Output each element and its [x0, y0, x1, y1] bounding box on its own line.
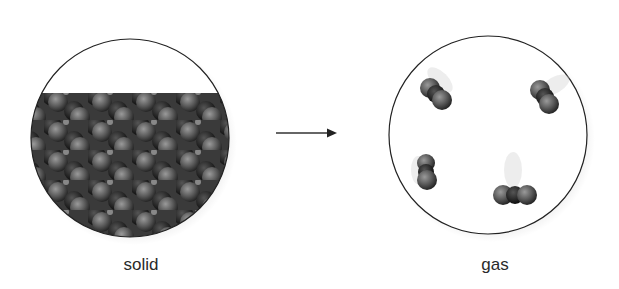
solid-label: solid	[91, 255, 191, 275]
diagram: solid gas	[0, 0, 619, 289]
gas-panel	[389, 36, 595, 242]
solid-panel	[20, 39, 250, 253]
gas-label: gas	[445, 255, 545, 275]
arrow-icon	[276, 129, 337, 138]
diagram-canvas	[0, 0, 619, 289]
